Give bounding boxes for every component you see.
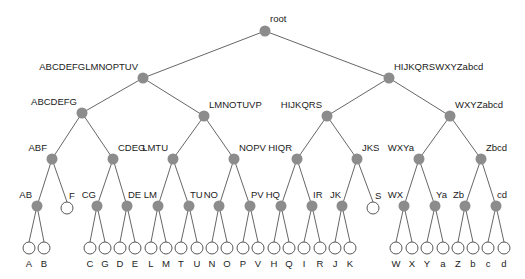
leaf-node (145, 242, 157, 254)
internal-node (92, 201, 103, 212)
tree-edge (312, 206, 320, 242)
leaf-label: Q (285, 258, 292, 269)
leaf-node (482, 242, 494, 254)
node-label: AB (19, 189, 32, 200)
leaf-node (206, 242, 218, 254)
internal-node (153, 201, 164, 212)
leaf-node (344, 242, 356, 254)
tree-edge (481, 159, 496, 206)
node-label: JKS (362, 142, 379, 153)
tree-edge (181, 206, 189, 242)
leaf-label: W (392, 258, 401, 269)
leaf-node (298, 242, 310, 254)
node-label: ABF (29, 142, 48, 153)
tree-edge (389, 78, 450, 116)
leaf-node (314, 242, 326, 254)
tree-edge (335, 206, 342, 242)
tree-edge (97, 159, 113, 206)
tree-edge (265, 31, 389, 78)
node-label: Ya (436, 189, 448, 200)
node-label: WXYZabcd (455, 99, 503, 110)
leaf-label: Z (455, 258, 461, 269)
leaf-node (367, 202, 379, 214)
node-label: LM (144, 189, 157, 200)
tree-edge (281, 206, 289, 242)
internal-node (184, 201, 195, 212)
leaf-label: U (194, 258, 201, 269)
leaf-label: E (132, 258, 138, 269)
internal-node (276, 201, 287, 212)
node-label: ABCDEFGLMNOPTUV (39, 61, 138, 72)
leaf-node (452, 242, 464, 254)
node-label: JK (330, 189, 342, 200)
tree-edge (82, 78, 143, 113)
tree-edge (29, 206, 37, 242)
tree-edge (435, 206, 443, 242)
tree-edge (427, 206, 435, 242)
leaf-label: N (209, 258, 216, 269)
leaf-label: T (178, 258, 184, 269)
internal-node (122, 201, 133, 212)
leaf-label: K (347, 258, 354, 269)
tree-edge (396, 206, 404, 242)
leaf-node (268, 242, 280, 254)
internal-node (214, 201, 225, 212)
leaf-label: d (501, 258, 506, 269)
tree-edge (357, 159, 373, 202)
node-label: NO (204, 189, 218, 200)
tree-edge (327, 78, 389, 116)
leaf-node (221, 242, 233, 254)
tree-edge (297, 159, 312, 206)
tree-edge (342, 206, 350, 242)
leaf-label: I (303, 258, 306, 269)
tree-diagram: rootABCDEFGLMNOPTUVHIJKQRSWXYZabcdABCDEF… (0, 0, 525, 279)
leaf-label: O (223, 258, 230, 269)
leaf-label: S (375, 190, 381, 201)
leaf-label: L (148, 258, 153, 269)
leaf-node (23, 242, 35, 254)
leaf-label: M (162, 258, 170, 269)
node-label: LMTU (142, 142, 168, 153)
tree-edge (52, 113, 82, 159)
tree-edge (204, 116, 234, 159)
leaf-label: G (101, 258, 108, 269)
node-label: NOPV (239, 142, 267, 153)
node-label: IR (313, 189, 323, 200)
internal-node (460, 201, 471, 212)
leaf-node (84, 242, 96, 254)
tree-edge (219, 159, 234, 206)
node-label: WXYa (388, 142, 415, 153)
internal-node (138, 73, 149, 84)
tree-edge (465, 159, 481, 206)
tree-edge (450, 116, 481, 159)
tree-edge (243, 206, 250, 242)
tree-edge (281, 159, 297, 206)
leaf-label: F (69, 190, 75, 201)
leaf-node (114, 242, 126, 254)
tree-edge (465, 206, 473, 242)
tree-edge (90, 206, 97, 242)
node-label: cd (497, 189, 507, 200)
tree-edge (37, 159, 52, 206)
node-label: WX (388, 189, 404, 200)
tree-edge (120, 206, 127, 242)
leaf-node (160, 242, 172, 254)
leaf-label: X (409, 258, 416, 269)
leaf-label: V (255, 258, 262, 269)
node-label: ABCDEFG (31, 96, 77, 107)
tree-edge (37, 206, 44, 242)
node-label: CG (82, 189, 96, 200)
tree-edge (342, 159, 357, 206)
tree-edge (250, 206, 258, 242)
leaf-node (129, 242, 141, 254)
tree-edge (488, 206, 496, 242)
tree-edge (52, 159, 67, 202)
tree-edge (419, 159, 435, 206)
internal-node (47, 154, 58, 165)
tree-edge (151, 206, 158, 242)
internal-node (322, 111, 333, 122)
tree-edge (458, 206, 465, 242)
internal-node (168, 154, 179, 165)
internal-node (32, 201, 43, 212)
internal-node (384, 73, 395, 84)
